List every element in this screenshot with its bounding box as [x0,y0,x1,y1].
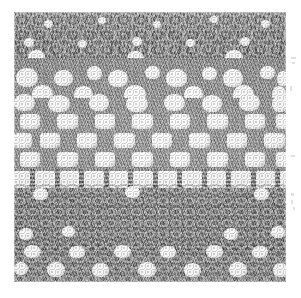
lace-sampler-photo: Grayscale scanned photograph of a croche… [14,12,286,282]
page-canvas: Grayscale scanned photograph of a croche… [0,0,301,298]
photo-edge [14,12,286,282]
margin-mark [291,193,294,196]
margin-mark [291,155,295,157]
margin-mark [293,207,295,210]
margin-mark [292,62,295,64]
margin-mark [291,57,296,59]
margin-mark [291,200,293,204]
margin-mark [290,86,292,91]
